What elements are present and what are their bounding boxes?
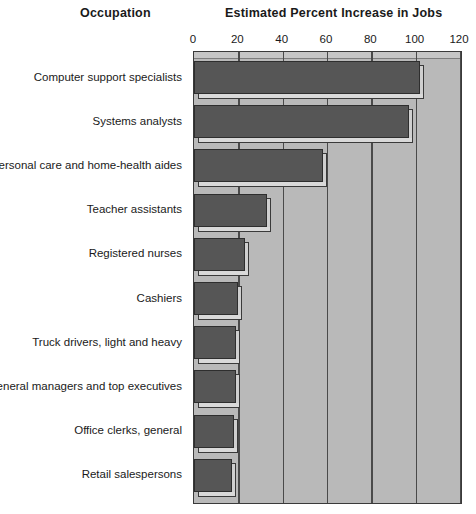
bar-row (194, 415, 240, 448)
bar-row (194, 326, 242, 359)
x-tick-label-40: 40 (275, 33, 288, 45)
chart-title: Estimated Percent Increase in Jobs (225, 6, 442, 20)
x-tick-label-0: 0 (190, 33, 196, 45)
gridline-100 (416, 52, 417, 503)
bar-row (194, 61, 426, 94)
bar-row (194, 105, 415, 138)
bar (194, 61, 420, 94)
category-axis-labels: Computer support specialistsSystems anal… (0, 51, 188, 504)
bar-bevel-bottom (198, 271, 249, 276)
bar (194, 238, 245, 271)
x-tick-label-60: 60 (320, 33, 333, 45)
bar-bevel-bottom (198, 182, 327, 187)
bar-bevel-bottom (198, 403, 240, 408)
bar-row (194, 370, 242, 403)
category-label: Personal care and home-health aides (0, 159, 182, 171)
category-label: Cashiers (137, 292, 182, 304)
bar-bevel-bottom (198, 94, 424, 99)
x-tick-label-120: 120 (449, 33, 468, 45)
category-label: Teacher assistants (87, 203, 182, 215)
bar-row (194, 194, 273, 227)
bar-row (194, 149, 329, 182)
category-label: Systems analysts (93, 115, 182, 127)
bar (194, 149, 323, 182)
bar-bevel-bottom (198, 227, 271, 232)
bar (194, 326, 236, 359)
bar-row (194, 238, 251, 271)
bar-bevel-bottom (198, 492, 236, 497)
bar-bevel-bottom (198, 448, 238, 453)
bar (194, 459, 232, 492)
category-label: Truck drivers, light and heavy (32, 336, 182, 348)
occupation-column-header: Occupation (80, 6, 151, 20)
plot-area (193, 51, 462, 504)
gridline-120 (460, 52, 461, 503)
bar (194, 370, 236, 403)
bar-row (194, 282, 244, 315)
x-tick-label-80: 80 (364, 33, 377, 45)
bar-row (194, 459, 238, 492)
category-label: General managers and top executives (0, 380, 182, 392)
bar (194, 105, 409, 138)
category-label: Computer support specialists (34, 71, 182, 83)
bar-bevel-bottom (198, 359, 240, 364)
category-label: Retail salespersons (82, 468, 182, 480)
x-tick-label-100: 100 (405, 33, 424, 45)
bar-bevel-bottom (198, 138, 413, 143)
bar (194, 282, 238, 315)
chart-figure: Occupation Estimated Percent Increase in… (0, 0, 476, 514)
x-axis-tick-labels: 020406080100120 (193, 33, 462, 49)
bar-bevel-bottom (198, 315, 242, 320)
category-label: Registered nurses (89, 247, 182, 259)
x-tick-label-20: 20 (231, 33, 244, 45)
category-label: Office clerks, general (74, 424, 182, 436)
bar (194, 415, 234, 448)
bar (194, 194, 267, 227)
